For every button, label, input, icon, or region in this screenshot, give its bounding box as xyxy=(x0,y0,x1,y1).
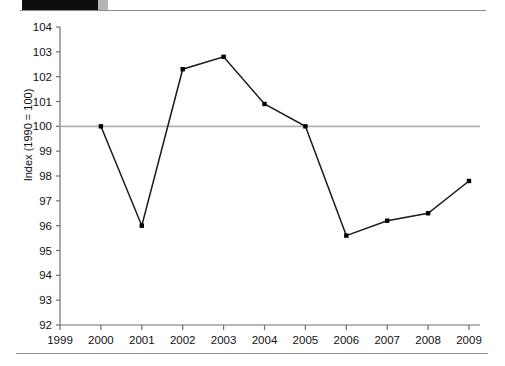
svg-text:94: 94 xyxy=(39,269,52,281)
svg-text:103: 103 xyxy=(33,46,52,58)
svg-text:2000: 2000 xyxy=(88,334,114,346)
svg-text:2007: 2007 xyxy=(374,334,400,346)
data-series-line xyxy=(101,57,469,236)
line-chart-svg: 1041031021011009998979695949392 19992000… xyxy=(0,11,505,353)
x-axis-tick-labels: 1999200020012002200320042005200620072008… xyxy=(47,334,482,346)
footer-divider xyxy=(16,353,488,354)
svg-text:101: 101 xyxy=(33,96,52,108)
svg-text:104: 104 xyxy=(33,21,53,33)
header-dark-block xyxy=(22,0,98,10)
svg-text:95: 95 xyxy=(39,245,52,257)
chart-page: Index (1990 = 100) 104103102101100999897… xyxy=(0,0,505,366)
svg-text:2009: 2009 xyxy=(456,334,482,346)
svg-text:2005: 2005 xyxy=(293,334,319,346)
chart-container: Index (1990 = 100) 104103102101100999897… xyxy=(0,11,505,353)
svg-text:2004: 2004 xyxy=(252,334,278,346)
svg-text:2003: 2003 xyxy=(211,334,237,346)
svg-text:2006: 2006 xyxy=(334,334,360,346)
svg-text:100: 100 xyxy=(33,120,52,132)
header-grey-block xyxy=(98,0,108,10)
svg-text:2008: 2008 xyxy=(415,334,441,346)
y-axis-tick-labels: 1041031021011009998979695949392 xyxy=(33,21,53,331)
svg-text:93: 93 xyxy=(39,294,52,306)
svg-text:96: 96 xyxy=(39,220,52,232)
svg-text:1999: 1999 xyxy=(47,334,73,346)
svg-text:98: 98 xyxy=(39,170,52,182)
svg-text:2002: 2002 xyxy=(170,334,196,346)
x-axis-ticks xyxy=(60,325,469,330)
svg-text:92: 92 xyxy=(39,319,52,331)
svg-text:102: 102 xyxy=(33,71,52,83)
data-point-markers xyxy=(99,55,472,238)
svg-text:2001: 2001 xyxy=(129,334,155,346)
svg-text:99: 99 xyxy=(39,145,52,157)
svg-text:97: 97 xyxy=(39,195,52,207)
